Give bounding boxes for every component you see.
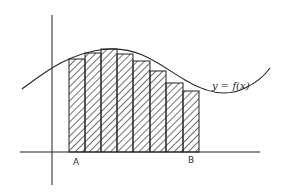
label-a: A: [73, 157, 80, 167]
rectangle-5: [133, 61, 150, 152]
rectangles: [69, 49, 199, 152]
rectangle-2: [85, 53, 101, 152]
rectangle-7: [166, 83, 183, 152]
rectangle-1: [69, 59, 85, 152]
riemann-sum-diagram: y = f(x) A B: [0, 0, 284, 193]
rectangle-6: [150, 71, 166, 152]
curve-label: y = f(x): [211, 80, 250, 91]
rectangle-4: [117, 54, 133, 152]
rectangle-8: [183, 91, 199, 152]
label-b: B: [188, 155, 194, 165]
rectangle-3: [101, 49, 117, 152]
